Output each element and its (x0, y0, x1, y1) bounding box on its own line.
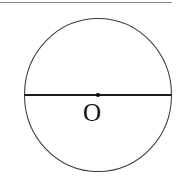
circle-diagram (0, 0, 184, 186)
figure-canvas: O (0, 0, 184, 186)
center-point-dot (96, 93, 100, 97)
center-point-label: O (0, 100, 184, 125)
